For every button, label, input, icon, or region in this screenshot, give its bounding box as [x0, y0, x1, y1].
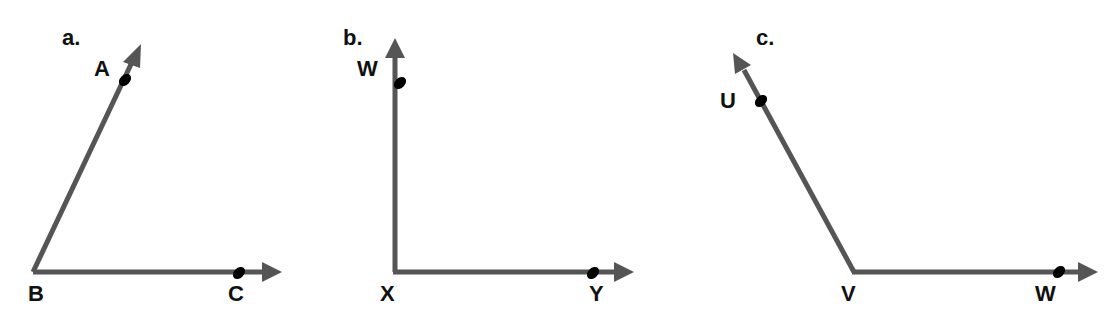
label-b: B — [28, 281, 44, 306]
label-u: U — [720, 88, 736, 113]
label-a: A — [94, 56, 110, 81]
panel-label-b: b. — [343, 25, 363, 50]
label-c: C — [228, 281, 244, 306]
panel-label-a: a. — [62, 25, 80, 50]
arrowhead-ba — [123, 44, 141, 68]
arrowhead-vu — [733, 53, 751, 74]
arrowhead-xy — [614, 262, 634, 282]
panel-label-c: c. — [756, 25, 774, 50]
label-w: W — [1035, 281, 1056, 306]
angle-b: b. W X Y — [343, 25, 634, 306]
label-x: X — [380, 281, 395, 306]
arrowhead-bc — [262, 262, 282, 282]
arrowhead-xw — [385, 38, 405, 58]
angle-c: c. U V W — [720, 25, 1098, 306]
angles-figure: a. A B C b. W X Y c. U V W — [0, 0, 1120, 331]
label-w: W — [357, 56, 378, 81]
angle-a: a. A B C — [28, 25, 282, 306]
arrowhead-vw — [1078, 262, 1098, 282]
label-y: Y — [589, 281, 604, 306]
ray-ba — [33, 60, 133, 272]
label-v: V — [841, 281, 856, 306]
